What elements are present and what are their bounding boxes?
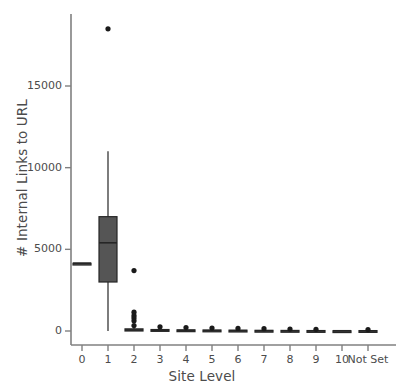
box-group	[125, 268, 143, 331]
box-group	[333, 331, 351, 333]
box-group	[99, 26, 117, 331]
box-group	[255, 326, 273, 332]
boxplot-figure: # Internal Links to URL Site Level 15000…	[0, 0, 404, 392]
box-group	[359, 327, 377, 332]
outlier-point	[131, 268, 136, 273]
box-group	[151, 324, 169, 331]
box-rect	[99, 217, 117, 282]
box-group	[73, 263, 91, 265]
outlier-point	[261, 326, 266, 331]
outlier-point	[131, 323, 136, 328]
plot-canvas	[0, 0, 404, 392]
outlier-point	[313, 327, 318, 332]
outlier-point	[287, 326, 292, 331]
box-group	[307, 327, 325, 333]
outlier-point	[365, 327, 370, 332]
outlier-point	[105, 26, 110, 31]
outlier-point	[235, 326, 240, 331]
outlier-point	[131, 318, 136, 323]
box-group	[281, 326, 299, 332]
outlier-point	[157, 324, 162, 329]
box-group	[177, 325, 195, 332]
outlier-point	[183, 325, 188, 330]
outlier-point	[209, 325, 214, 330]
box-group	[203, 325, 221, 331]
box-group	[229, 326, 247, 332]
